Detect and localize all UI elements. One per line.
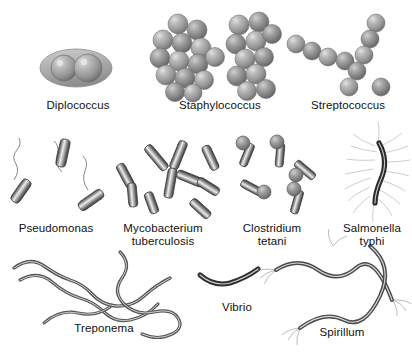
bacteria-morphology-figure: Diplococcus Staphylococcus Streptococcus… xyxy=(0,0,412,352)
label-diplococcus: Diplococcus xyxy=(0,99,156,112)
organism-salmonella-typhi xyxy=(345,122,410,222)
organism-staphylococcus xyxy=(150,12,282,102)
label-salmonella-typhi: Salmonella typhi xyxy=(326,222,412,247)
organism-streptococcus xyxy=(287,14,390,96)
organism-mycobacterium-tuberculosis xyxy=(115,140,220,220)
pseudomonas-cell-3 xyxy=(77,156,106,212)
pseudomonas-cell-1 xyxy=(9,138,32,205)
organism-clostridium-tetani xyxy=(236,135,317,215)
pseudomonas-cell-2 xyxy=(54,138,71,172)
label-staphylococcus: Staphylococcus xyxy=(150,99,290,112)
clostridium-cell-1 xyxy=(236,136,255,168)
organism-pseudomonas xyxy=(9,138,105,212)
label-spirillum: Spirillum xyxy=(294,326,390,339)
staph-cluster-right xyxy=(226,12,282,101)
clostridium-cell-4 xyxy=(240,179,271,199)
label-clostridium-tetani: Clostridium tetani xyxy=(223,222,321,247)
organism-diplococcus xyxy=(40,49,112,87)
clostridium-cell-2 xyxy=(270,135,285,167)
clostridium-cell-3 xyxy=(289,159,317,182)
label-mycobacterium-tuberculosis: Mycobacterium tuberculosis xyxy=(105,222,221,247)
clostridium-cell-5 xyxy=(287,182,304,215)
label-streptococcus: Streptococcus xyxy=(288,99,408,112)
figure-canvas xyxy=(0,0,412,352)
label-pseudomonas: Pseudomonas xyxy=(0,222,112,235)
salmonella-flagella xyxy=(345,122,410,222)
organism-vibrio xyxy=(200,269,258,284)
staph-cluster-left xyxy=(150,14,225,102)
label-vibrio: Vibrio xyxy=(205,301,269,314)
label-treponema: Treponema xyxy=(52,322,156,335)
